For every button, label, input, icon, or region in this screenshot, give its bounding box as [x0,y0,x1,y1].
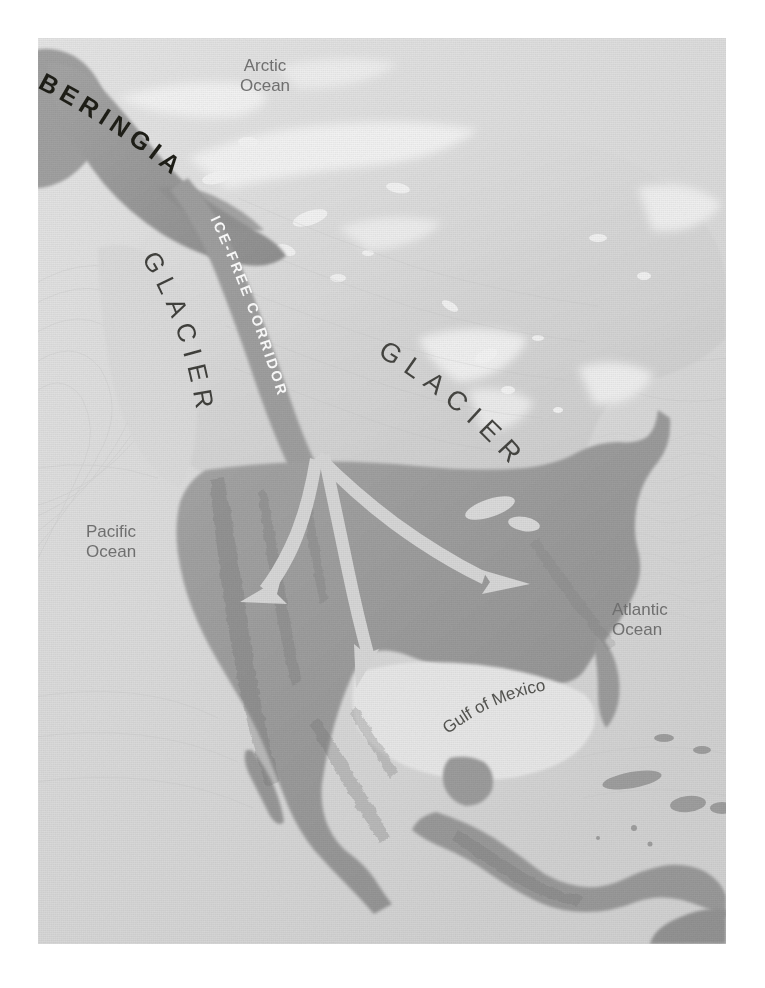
paper-grain [38,38,726,944]
pacific-ocean-line2: Ocean [86,542,196,562]
map-plate: BERINGIA GLACIER GLACIER ICE-FREE CORRID… [38,38,726,944]
map-graphic: BERINGIA GLACIER GLACIER ICE-FREE CORRID… [38,38,726,944]
atlantic-ocean-line1: Atlantic [612,600,722,620]
atlantic-ocean-label: Atlantic Ocean [612,600,722,640]
atlantic-ocean-line2: Ocean [612,620,722,640]
arctic-ocean-label: Arctic Ocean [210,56,320,96]
pacific-ocean-label: Pacific Ocean [86,522,196,562]
pacific-ocean-line1: Pacific [86,522,196,542]
arctic-ocean-line2: Ocean [210,76,320,96]
map-figure: BERINGIA GLACIER GLACIER ICE-FREE CORRID… [0,0,765,988]
arctic-ocean-line1: Arctic [210,56,320,76]
